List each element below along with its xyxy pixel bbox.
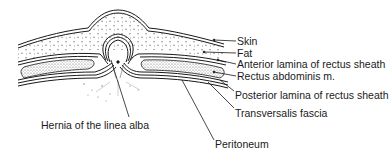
label-posterior-lamina: Posterior lamina of rectus sheath [235, 89, 389, 101]
label-peritoneum: Peritoneum [215, 138, 269, 150]
extraperitoneal-stipple [83, 80, 140, 102]
label-skin: Skin [237, 35, 257, 47]
label-hernia-linea-alba: Hernia of the linea alba [41, 119, 149, 131]
label-transversalis-fascia: Transversalis fascia [235, 107, 327, 119]
label-rectus-abdominis: Rectus abdominis m. [237, 70, 335, 82]
label-anterior-lamina: Anterior lamina of rectus sheath [237, 58, 385, 70]
